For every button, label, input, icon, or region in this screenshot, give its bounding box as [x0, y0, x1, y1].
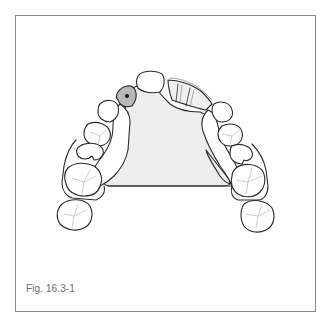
tooth-right-canine: [212, 102, 233, 122]
tooth-left-lateral: [98, 100, 119, 122]
tooth-left-canine: [84, 122, 110, 146]
marker-dot-icon: [125, 94, 129, 98]
tooth-right-molar-2: [241, 201, 274, 233]
dental-arch-diagram: [0, 0, 328, 325]
tooth-right-premolar-2: [230, 144, 252, 164]
tooth-left-premolar-1: [77, 143, 104, 160]
figure-caption: Fig. 16.3-1: [26, 283, 75, 294]
tooth-right-molar-1: [231, 164, 265, 196]
tooth-left-molar-1: [65, 163, 102, 196]
bridge-segment: [168, 80, 212, 110]
tooth-central-incisor: [137, 71, 165, 93]
